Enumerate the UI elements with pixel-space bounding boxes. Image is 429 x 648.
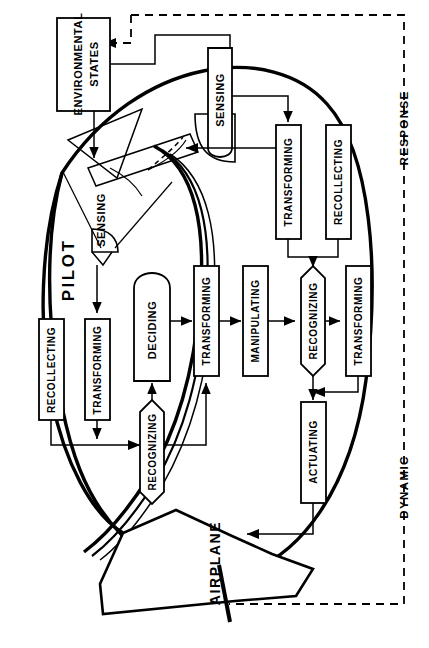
- wire-actuating-to-airplane: [247, 503, 313, 534]
- block-actuating[interactable]: ACTUATING: [301, 402, 326, 503]
- block-transforming-left[interactable]: TRANSFORMING: [85, 319, 110, 420]
- wire-topright-to-recognizing: [288, 239, 338, 267]
- block-transforming-mid[interactable]: TRANSFORMING: [194, 266, 219, 376]
- dynamic-label: DYNAMIC: [398, 455, 410, 518]
- block-transforming-right[interactable]: TRANSFORMING: [346, 266, 371, 376]
- block-recognizing-left[interactable]: RECOGNIZING: [140, 400, 164, 504]
- transforming-right-label: TRANSFORMING: [353, 277, 364, 366]
- pilot-eye-funnel: [63, 172, 172, 265]
- environmental-states-line2: STATES: [88, 41, 100, 86]
- block-manipulating[interactable]: MANIPULATING: [243, 266, 268, 376]
- recollecting-top-right-label: RECOLLECTING: [333, 139, 344, 225]
- block-recollecting-top-right[interactable]: RECOLLECTING: [326, 125, 351, 239]
- transforming-top-right-label: TRANSFORMING: [283, 138, 294, 227]
- block-recognizing-right[interactable]: RECOGNIZING: [301, 266, 325, 376]
- sensing-pilot-label: SENSING: [95, 193, 107, 247]
- actuating-label: ACTUATING: [308, 420, 319, 484]
- pilot-label: PILOT: [59, 239, 78, 302]
- figure-canvas: ENVIRONMENTAL STATES SENSING TRANSFORMIN…: [0, 0, 429, 648]
- recollecting-left-label: RECOLLECTING: [46, 327, 57, 413]
- airplane-label: AIRPLANE: [207, 521, 223, 605]
- wire-sensing-to-transforming: [232, 96, 288, 122]
- transforming-left-label: TRANSFORMING: [92, 326, 103, 415]
- recognizing-right-label: RECOGNIZING: [308, 282, 319, 359]
- wire-transforming-right-to-actuating: [313, 376, 358, 400]
- response-label: RESPONSE: [398, 90, 410, 165]
- block-diagram-svg: ENVIRONMENTAL STATES SENSING TRANSFORMIN…: [0, 0, 429, 648]
- block-recollecting-left[interactable]: RECOLLECTING: [39, 319, 64, 420]
- view-cone-wedges: [68, 109, 198, 196]
- block-sensing-top[interactable]: SENSING: [208, 48, 232, 157]
- transforming-mid-label: TRANSFORMING: [201, 277, 212, 366]
- sensing-top-label: SENSING: [214, 73, 226, 127]
- deciding-label: DECIDING: [146, 301, 158, 360]
- block-deciding[interactable]: DECIDING: [134, 273, 170, 381]
- manipulating-label: MANIPULATING: [250, 279, 261, 362]
- block-transforming-top-right[interactable]: TRANSFORMING: [276, 125, 301, 239]
- recognizing-left-label: RECOGNIZING: [147, 413, 158, 490]
- environmental-states-line1: ENVIRONMENTAL: [72, 13, 84, 116]
- block-environmental-states[interactable]: ENVIRONMENTAL STATES: [57, 13, 110, 116]
